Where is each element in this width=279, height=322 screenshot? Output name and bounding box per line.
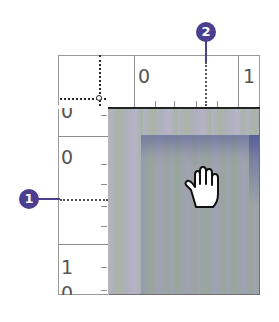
- horizontal-ruler-guide[interactable]: [205, 62, 207, 106]
- ruler-minor-tick: [101, 290, 107, 291]
- ruler-label: 1: [61, 258, 73, 277]
- ruler-label: 0: [61, 284, 73, 295]
- ruler-major-tick: [58, 244, 108, 245]
- callout-leader-line: [38, 198, 60, 200]
- ruler-major-tick: [58, 136, 108, 137]
- origin-crosshair-icon[interactable]: [96, 95, 102, 101]
- image-content: [141, 135, 260, 295]
- ruler-minor-tick: [101, 164, 107, 165]
- ruler-minor-tick: [101, 115, 107, 116]
- ruler-label: 0: [61, 148, 73, 167]
- ruler-minor-tick: [101, 226, 107, 227]
- callout-badge-2: 2: [196, 22, 216, 42]
- vertical-ruler-guide[interactable]: [60, 199, 108, 201]
- callout-badge-1: 1: [19, 189, 39, 209]
- ruler-label: 0: [61, 108, 73, 122]
- ruler-label: 0: [138, 67, 150, 86]
- ruler-minor-tick: [101, 206, 107, 207]
- ruler-major-tick: [238, 55, 239, 108]
- hand-icon: [181, 166, 223, 210]
- ruler-major-tick: [134, 55, 135, 108]
- ruler-label-text: 0: [61, 284, 73, 295]
- ruler-minor-tick: [101, 184, 107, 185]
- ruler-label-text: 0: [61, 108, 73, 121]
- ruler-minor-tick: [101, 267, 107, 268]
- image-shading: [249, 135, 260, 205]
- ruler-label: 1: [243, 67, 255, 86]
- callout-leader-line: [205, 40, 207, 62]
